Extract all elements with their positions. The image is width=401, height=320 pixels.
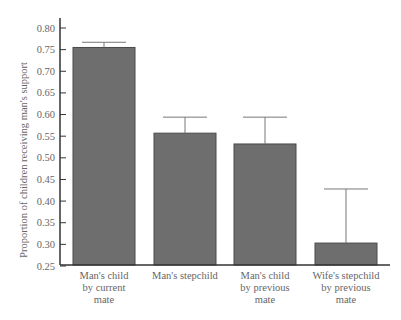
- y-tick-label: 0.60: [37, 109, 55, 120]
- y-axis-title: Proportion of children receiving man's s…: [18, 62, 29, 258]
- y-tick-label: 0.30: [37, 239, 55, 250]
- category-label: Man's childby previousmate: [240, 270, 290, 305]
- category-label: Man's stepchild: [152, 270, 219, 281]
- y-tick-label: 0.75: [37, 44, 55, 55]
- bars: [73, 47, 377, 265]
- category-label: Wife's stepchildby previousmate: [312, 270, 380, 305]
- category-label: Man's childby currentmate: [80, 270, 130, 305]
- bar: [154, 133, 216, 265]
- y-axis-label: Proportion of children receiving man's s…: [18, 62, 29, 258]
- bar-chart: Proportion of children receiving man's s…: [0, 0, 401, 320]
- bar: [315, 243, 377, 265]
- bar: [73, 47, 135, 265]
- bar: [234, 144, 296, 265]
- y-tick-label: 0.40: [37, 196, 55, 207]
- y-tick-label: 0.55: [37, 131, 55, 142]
- y-axis-ticks: 0.250.300.350.400.450.500.550.600.650.70…: [37, 23, 66, 272]
- y-tick-label: 0.45: [37, 174, 55, 185]
- y-tick-label: 0.70: [37, 66, 55, 77]
- y-tick-label: 0.65: [37, 87, 55, 98]
- y-tick-label: 0.35: [37, 217, 55, 228]
- y-tick-label: 0.25: [37, 261, 55, 272]
- y-tick-label: 0.80: [37, 23, 55, 34]
- y-tick-label: 0.50: [37, 152, 55, 163]
- x-axis-category-labels: Man's childby currentmateMan's stepchild…: [80, 270, 381, 305]
